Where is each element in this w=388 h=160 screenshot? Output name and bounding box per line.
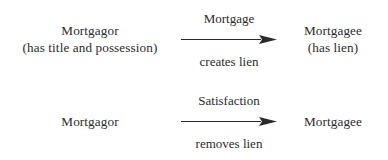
mortgage-row-right-party-name: Mortgagee	[280, 23, 386, 40]
mortgage-row-left-party-name: Mortgagor	[2, 23, 178, 40]
satisfaction-row-arrow-group: Satisfaction removes lien	[179, 86, 279, 158]
mortgage-row-arrow-label-below: creates lien	[200, 55, 259, 68]
diagram-row-mortgage: Mortgagor (has title and possession) Mor…	[0, 4, 388, 76]
satisfaction-row-right-party-name: Mortgagee	[280, 114, 386, 131]
satisfaction-row-left-party-name: Mortgagor	[2, 114, 178, 131]
satisfaction-row-left-party: Mortgagor	[0, 114, 178, 131]
mortgage-row-arrow-icon	[181, 34, 277, 45]
mortgage-row-right-party: Mortgagee (has lien)	[280, 23, 388, 57]
mortgage-row-left-party: Mortgagor (has title and possession)	[0, 23, 178, 57]
satisfaction-row-right-party: Mortgagee	[280, 114, 388, 131]
mortgage-row-right-party-detail: (has lien)	[280, 40, 386, 57]
diagram-row-satisfaction: Mortgagor Satisfaction removes lien Mort…	[0, 86, 388, 158]
satisfaction-row-arrow-label-above: Satisfaction	[198, 94, 259, 107]
mortgage-relationship-diagram: Mortgagor (has title and possession) Mor…	[0, 0, 388, 160]
satisfaction-row-arrow-icon	[181, 116, 277, 127]
satisfaction-row-arrow-label-below: removes lien	[196, 137, 263, 150]
mortgage-row-arrow-label-above: Mortgage	[204, 12, 255, 25]
mortgage-row-left-party-detail: (has title and possession)	[2, 40, 178, 57]
mortgage-row-arrow-group: Mortgage creates lien	[179, 4, 279, 76]
